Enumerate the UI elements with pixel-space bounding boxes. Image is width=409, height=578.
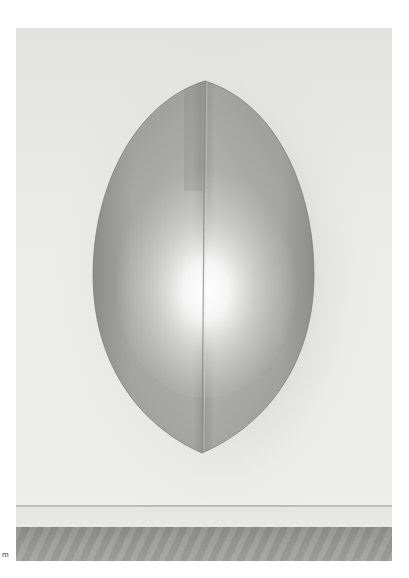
caption-fragment-text: m [2,551,9,559]
artwork-photograph [16,28,392,561]
lens-sculpture [16,28,392,561]
